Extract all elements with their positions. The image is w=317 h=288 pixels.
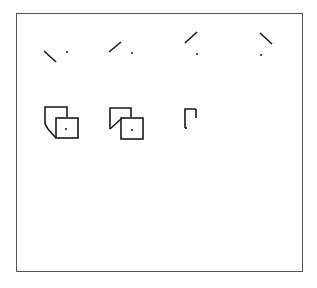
object-3 bbox=[185, 109, 196, 128]
object-1 bbox=[45, 107, 78, 138]
single-line-4 bbox=[260, 33, 272, 56]
single-line-3 bbox=[185, 32, 198, 55]
object-2 bbox=[110, 108, 143, 139]
single-line-1 bbox=[44, 51, 68, 62]
figure-artwork bbox=[0, 0, 317, 288]
single-line-2 bbox=[109, 42, 133, 54]
